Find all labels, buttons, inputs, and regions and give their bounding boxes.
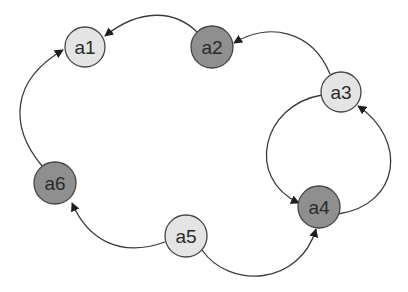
node-a6: a6	[34, 162, 76, 204]
node-a5: a5	[165, 215, 207, 257]
node-a1-label: a1	[74, 37, 95, 58]
edge-a6-to-a1	[20, 50, 63, 166]
edge-a5-to-a4	[202, 229, 316, 276]
node-a4-label: a4	[308, 197, 330, 218]
node-a6-label: a6	[44, 173, 65, 194]
node-a5-label: a5	[175, 226, 196, 247]
edge-a4-to-a3	[338, 106, 391, 214]
node-a4: a4	[298, 186, 340, 228]
node-a3-label: a3	[330, 82, 351, 103]
node-a1: a1	[65, 27, 105, 67]
node-a3: a3	[321, 72, 361, 112]
edge-a5-to-a6	[72, 203, 165, 248]
edge-a3-to-a2	[234, 32, 330, 74]
node-a2: a2	[191, 26, 233, 68]
node-a2-label: a2	[201, 37, 222, 58]
directed-graph: a1 a2 a3 a4 a5 a6	[0, 0, 408, 292]
edge-a2-to-a1	[105, 15, 197, 36]
